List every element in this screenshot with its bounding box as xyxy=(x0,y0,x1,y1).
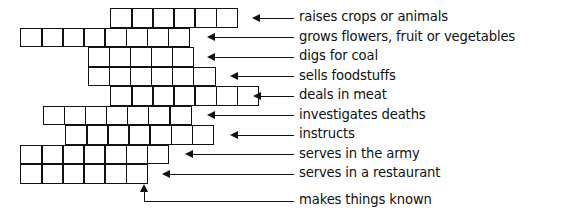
clue-text-5: deals in meat xyxy=(299,88,387,101)
clue-text-2: grows flowers, fruit or vegetables xyxy=(299,30,515,43)
clue-text-8: serves in the army xyxy=(299,147,420,160)
clue-text-6: investigates deaths xyxy=(299,108,426,121)
clue-text-10: makes things known xyxy=(299,193,432,206)
clue-text-7: instructs xyxy=(299,127,355,140)
clue-list: raises crops or animals grows flowers, f… xyxy=(0,0,572,218)
clue-text-3: digs for coal xyxy=(299,49,378,62)
clue-text-9: serves in a restaurant xyxy=(299,166,440,179)
clue-text-1: raises crops or animals xyxy=(299,10,448,23)
crossword-puzzle: raises crops or animals grows flowers, f… xyxy=(0,0,572,218)
clue-text-4: sells foodstuffs xyxy=(299,69,396,82)
